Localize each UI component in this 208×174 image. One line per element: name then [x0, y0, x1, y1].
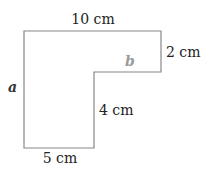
bottom-side-label: 5 cm	[43, 150, 77, 166]
inner-vertical-label: 4 cm	[99, 102, 133, 118]
l-shape-diagram: 10 cm 2 cm 4 cm 5 cm a b	[0, 0, 208, 174]
top-side-label: 10 cm	[71, 11, 114, 27]
l-shape-outline	[24, 31, 161, 148]
right-side-label: 2 cm	[166, 44, 200, 60]
variable-b-label: b	[125, 53, 135, 69]
variable-a-label: a	[8, 79, 17, 95]
